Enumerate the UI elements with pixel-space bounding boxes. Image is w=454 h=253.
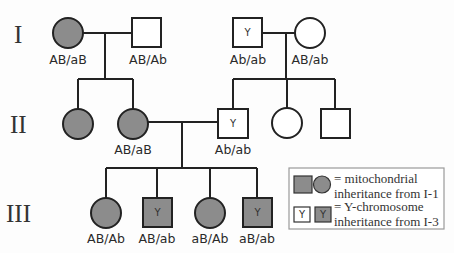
legend-y-shaded-square-text: Y [319,209,327,220]
y-marker-text: Y [153,207,161,218]
female-affected-symbol [53,18,83,48]
legend-y-line1: = Y-chromosome [334,199,424,214]
legend-shaded-circle-icon [314,176,331,193]
legend-y-square-text: Y [298,209,306,220]
individual-ii2: AB/aB [114,109,152,157]
legend-shaded-square-icon [294,176,312,193]
female-unaffected-symbol [295,18,325,48]
genotype-label: AB/aB [114,142,152,157]
female-affected-symbol [63,109,93,139]
male-unaffected-symbol [132,18,161,47]
male-unaffected-symbol [321,109,350,138]
female-affected-symbol [91,198,121,228]
individual-i3: Y Ab/ab [230,18,266,67]
generation-label-iii: III [6,200,31,227]
legend-mito-line1: = mitochondrial [334,171,418,186]
individual-iii4: Y aB/ab [239,198,275,246]
genotype-label: AB/Ab [129,52,167,67]
female-affected-symbol [195,198,225,228]
genotype-label: AB/Ab [87,231,125,246]
genotype-label: aB/Ab [192,231,229,246]
individual-i4: AB/ab [292,18,329,67]
legend: = mitochondrial inheritance from I-1 Y Y… [289,168,444,229]
pedigree-diagram: I II III AB/aB AB/Ab Y Ab/ab [0,0,454,253]
female-unaffected-symbol [272,108,302,138]
generation-label-i: I [14,21,22,48]
individual-ii1 [63,109,93,139]
individual-iii1: AB/Ab [87,198,125,246]
generation-label-ii: II [10,111,27,138]
legend-y-line2: inheritance from I-3 [334,214,439,229]
y-marker-text: Y [229,118,237,129]
individual-ii3: Y Ab/ab [215,109,251,157]
individual-iii3: aB/Ab [192,198,229,246]
genotype-label: Ab/ab [215,142,251,157]
individual-ii4 [272,108,302,138]
genotype-label: Ab/ab [230,52,266,67]
y-marker-text: Y [253,207,261,218]
genotype-label: AB/ab [292,52,329,67]
female-affected-symbol [118,109,148,139]
y-marker-text: Y [243,27,251,38]
individual-i1: AB/aB [49,18,87,67]
genotype-label: aB/ab [239,231,275,246]
individual-ii5 [321,109,350,138]
individual-iii2: Y AB/ab [139,198,176,246]
genotype-label: AB/ab [139,231,176,246]
individual-i2: AB/Ab [129,18,167,67]
genotype-label: AB/aB [49,52,87,67]
